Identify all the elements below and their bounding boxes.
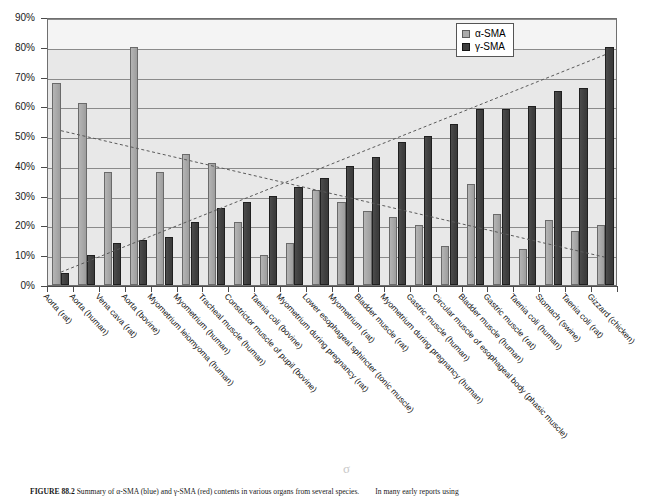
x-tick-mark-4 xyxy=(151,287,152,292)
trendlines xyxy=(48,19,618,287)
trendline-γ-SMA-trend xyxy=(61,55,605,272)
y-tick-label-60%: 60% xyxy=(15,102,35,112)
x-tick-mark-16 xyxy=(462,287,463,292)
trendline-α-SMA-trend xyxy=(61,131,605,258)
x-tick-mark-8 xyxy=(254,287,255,292)
y-tick-label-30%: 30% xyxy=(15,192,35,202)
y-tick-label-40%: 40% xyxy=(15,162,35,172)
x-tick-mark-15 xyxy=(436,287,437,292)
y-tick-label-0%: 0% xyxy=(21,281,35,291)
figure-container: 0%10%20%30%40%50%60%70%80%90% α-SMA γ-SM… xyxy=(0,0,647,502)
y-tick-label-70%: 70% xyxy=(15,73,35,83)
x-tick-mark-9 xyxy=(280,287,281,292)
x-tick-mark-0 xyxy=(47,287,48,292)
legend-swatch-gamma xyxy=(462,43,470,51)
x-tick-mark-20 xyxy=(565,287,566,292)
page-artifact-glyph: σ xyxy=(343,461,350,477)
x-tick-mark-1 xyxy=(73,287,74,292)
x-axis-label-11: Myometrium (rat) xyxy=(326,292,376,345)
x-tick-mark-end xyxy=(617,287,618,292)
x-tick-mark-5 xyxy=(177,287,178,292)
legend-label-alpha: α-SMA xyxy=(475,27,506,40)
y-tick-label-10%: 10% xyxy=(15,251,35,261)
x-tick-mark-11 xyxy=(332,287,333,292)
x-tick-mark-3 xyxy=(125,287,126,292)
x-tick-mark-18 xyxy=(513,287,514,292)
plot-area xyxy=(47,18,617,286)
y-tick-label-50%: 50% xyxy=(15,132,35,142)
x-tick-mark-19 xyxy=(539,287,540,292)
x-tick-mark-17 xyxy=(487,287,488,292)
x-tick-mark-10 xyxy=(306,287,307,292)
legend-entry-gamma: γ-SMA xyxy=(462,40,506,53)
x-tick-mark-7 xyxy=(228,287,229,292)
chart-legend: α-SMA γ-SMA xyxy=(456,23,514,57)
legend-label-gamma: γ-SMA xyxy=(475,40,505,53)
x-tick-mark-6 xyxy=(202,287,203,292)
legend-entry-alpha: α-SMA xyxy=(462,27,506,40)
caption-text: Summary of α-SMA (blue) and γ-SMA (red) … xyxy=(77,487,360,496)
y-tick-label-20%: 20% xyxy=(15,221,35,231)
x-tick-mark-21 xyxy=(591,287,592,292)
caption-tail: In many early reports using xyxy=(375,487,459,496)
x-tick-mark-14 xyxy=(410,287,411,292)
x-axis-labels: Aorta (rat)Aorta (human)Vena cava (rat)A… xyxy=(0,292,647,457)
y-tick-label-90%: 90% xyxy=(15,13,35,23)
figure-caption: FIGURE 88.2 Summary of α-SMA (blue) and … xyxy=(30,487,630,496)
x-tick-mark-13 xyxy=(384,287,385,292)
x-tick-mark-2 xyxy=(99,287,100,292)
y-tick-label-80%: 80% xyxy=(15,43,35,53)
x-tick-mark-12 xyxy=(358,287,359,292)
caption-label: FIGURE 88.2 xyxy=(30,487,75,496)
legend-swatch-alpha xyxy=(462,30,470,38)
